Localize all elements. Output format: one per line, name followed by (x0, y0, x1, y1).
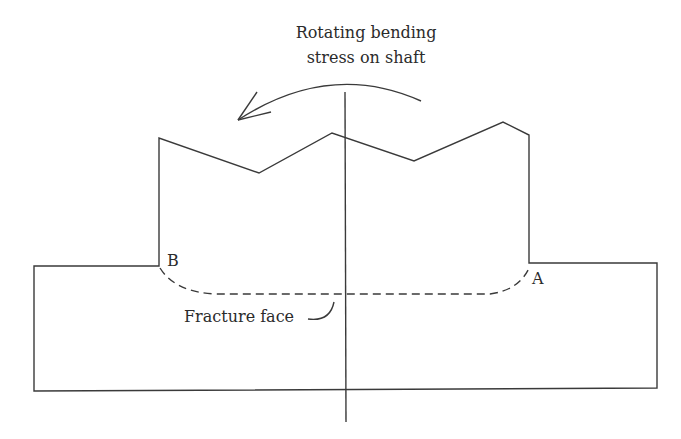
title-line-2: stress on shaft (307, 48, 426, 67)
point-b-label: B (167, 251, 179, 270)
title-line-1: Rotating bending (296, 23, 437, 42)
fracture-face-label: Fracture face (184, 307, 294, 326)
rotation-arrow-icon (238, 84, 421, 120)
shaft-axis-line (345, 92, 346, 422)
shaft-fracture-diagram: Rotating bending stress on shaft B A Fra… (0, 0, 681, 439)
point-a-label: A (531, 269, 544, 288)
fracture-leader-line (308, 302, 334, 319)
